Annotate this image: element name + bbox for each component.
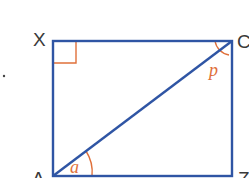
vertex-label-x: X <box>33 29 46 50</box>
angle-arc-a <box>86 151 92 176</box>
diagonal-ac <box>53 41 232 176</box>
vertex-label-c: C <box>237 31 249 52</box>
vertex-label-z: Z <box>238 168 249 178</box>
right-angle-marker <box>53 41 76 63</box>
diagram-canvas: X C A Z p a <box>0 0 249 178</box>
bullet-dot <box>3 75 5 77</box>
vertex-label-a: A <box>32 168 45 178</box>
angle-label-a: a <box>70 157 79 177</box>
angle-label-p: p <box>207 60 218 80</box>
